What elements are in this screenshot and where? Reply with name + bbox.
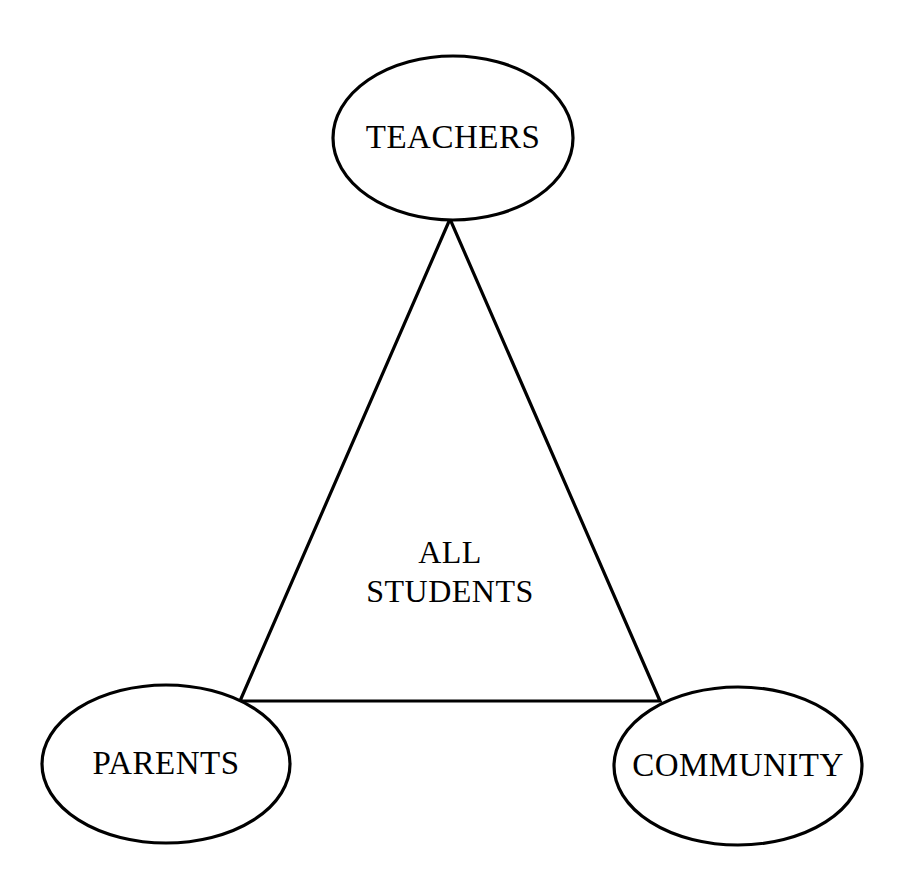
connector-triangle — [240, 219, 660, 701]
diagram-canvas: TEACHERS PARENTS COMMUNITY ALL STUDENTS — [0, 0, 901, 889]
stakeholder-triangle-diagram: TEACHERS PARENTS COMMUNITY ALL STUDENTS — [0, 0, 901, 889]
teachers-label: TEACHERS — [366, 119, 541, 155]
parents-label: PARENTS — [92, 745, 239, 781]
node-community[interactable]: COMMUNITY — [614, 687, 862, 845]
node-parents[interactable]: PARENTS — [42, 685, 290, 843]
community-label: COMMUNITY — [632, 747, 844, 783]
center-label-group: ALL STUDENTS — [366, 534, 534, 609]
node-teachers[interactable]: TEACHERS — [333, 56, 573, 220]
center-label-line-1: ALL — [418, 534, 482, 570]
center-label-line-2: STUDENTS — [366, 573, 534, 609]
